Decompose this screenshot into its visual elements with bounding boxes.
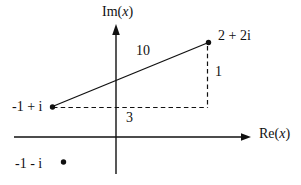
imaginary-axis-label-suffix: ): [128, 4, 133, 20]
complex-plane-canvas: Im(x) Re(x) 2 + 2i -1 + i -1 - i 10 3 1: [0, 0, 301, 185]
label-horizontal-leg-length: 3: [126, 110, 133, 125]
label-hypotenuse-length: 10: [136, 43, 150, 58]
hypotenuse-segment: [53, 43, 209, 107]
imaginary-axis-label: Im(x): [102, 4, 133, 20]
point-neg-one-plus-i: [50, 104, 55, 109]
real-axis-label-suffix: ): [285, 126, 290, 142]
point-two-plus-two-i: [206, 40, 211, 45]
real-axis-label-prefix: Re(: [259, 126, 280, 142]
label-two-plus-two-i: 2 + 2i: [218, 28, 251, 43]
real-axis-label: Re(x): [259, 126, 290, 142]
label-vertical-leg-length: 1: [215, 64, 222, 79]
label-neg-one-minus-i: -1 - i: [15, 156, 42, 171]
point-neg-one-minus-i: [61, 159, 66, 164]
imaginary-axis-label-prefix: Im(: [102, 4, 123, 20]
label-neg-one-plus-i: -1 + i: [12, 99, 43, 114]
complex-plane-figure: Im(x) Re(x) 2 + 2i -1 + i -1 - i 10 3 1: [0, 0, 301, 185]
real-axis-arrowhead-icon: [241, 133, 251, 141]
imaginary-axis-arrowhead-icon: [112, 24, 120, 35]
